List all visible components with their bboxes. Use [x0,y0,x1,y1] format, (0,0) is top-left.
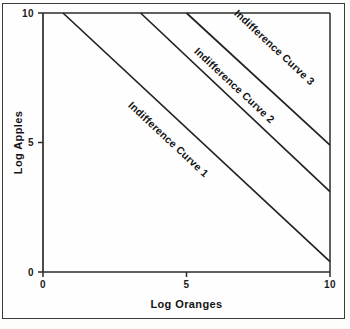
y-tick-label-5: 5 [28,137,34,148]
x-axis-title: Log Oranges [150,298,222,310]
x-tick-label-0: 0 [40,279,46,290]
x-tick-label-10: 10 [324,279,336,290]
y-tick-label-0: 0 [28,267,34,278]
y-tick-label-10: 10 [22,8,34,19]
indifference-curve-2-line [141,13,330,192]
chart-canvas: 10 5 0 0 5 10 Log Oranges Log Apples Ind… [0,0,350,329]
y-axis-title: Log Apples [12,111,24,174]
indifference-curve-3-label: Indifference Curve 3 [232,7,317,87]
x-tick-label-5: 5 [183,279,189,290]
indifference-curve-figure: 10 5 0 0 5 10 Log Oranges Log Apples Ind… [0,0,350,329]
